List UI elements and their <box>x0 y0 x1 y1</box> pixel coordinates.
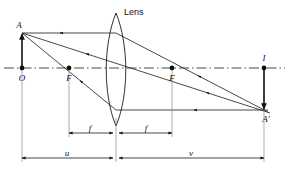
image-base-label: I <box>262 53 267 63</box>
ray-parallel-refracted-arrow <box>198 76 199 77</box>
focal-left-label: F <box>65 73 72 83</box>
lens-label: Lens <box>124 7 144 17</box>
image-tip-label: A' <box>261 114 270 124</box>
ray-parallel-refracted <box>116 33 268 112</box>
focal-right-label: F <box>168 73 175 83</box>
object-base-label: O <box>19 73 26 83</box>
object-tip-label: A <box>15 20 22 30</box>
focal-length-left-label: f <box>89 123 93 133</box>
image-distance-label: v <box>189 148 193 158</box>
ray-through-focus-incident-arrow <box>80 81 81 82</box>
image-base-point <box>262 66 267 71</box>
converging-lens-icon <box>106 13 126 126</box>
object-base-point <box>20 66 25 71</box>
focal-length-right-label: f <box>145 123 149 133</box>
object-distance-label: u <box>65 148 70 158</box>
ray-through-centre <box>22 33 270 113</box>
optics-svg-canvas: Lens A O F F I A' f f u v <box>0 0 289 174</box>
optics-ray-diagram: Lens A O F F I A' f f u v <box>0 0 289 174</box>
focal-point-right <box>170 66 175 71</box>
